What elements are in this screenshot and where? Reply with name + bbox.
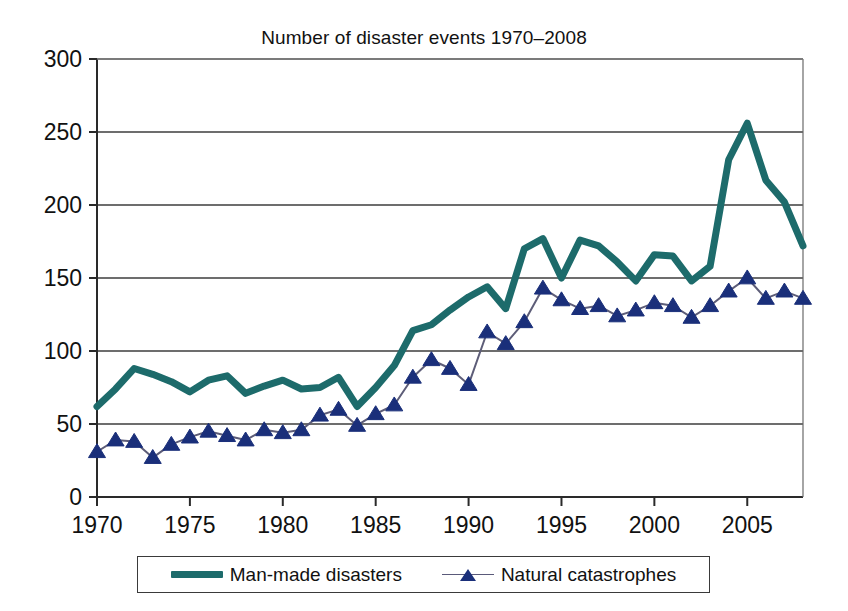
data-point-marker-triangle: [479, 324, 496, 338]
legend-item-natural: Natural catastrophes: [442, 564, 676, 586]
data-point-marker-triangle: [739, 270, 756, 284]
x-tick-label: 1995: [536, 512, 587, 538]
data-point-marker-triangle: [89, 444, 106, 458]
data-point-marker-triangle: [200, 423, 217, 437]
chart-plot-area: 050100150200250300 197019751980198519901…: [0, 0, 848, 611]
data-point-marker-triangle: [553, 292, 570, 306]
data-point-marker-triangle: [534, 280, 551, 294]
data-point-marker-triangle: [776, 283, 793, 297]
x-tick-label: 1970: [71, 512, 122, 538]
data-point-marker-triangle: [720, 283, 737, 297]
y-tick-label: 50: [56, 411, 82, 437]
x-tick-label: 1990: [443, 512, 494, 538]
data-point-marker-triangle: [683, 309, 700, 323]
y-tick-label: 150: [44, 265, 82, 291]
x-tick-label: 2000: [629, 512, 680, 538]
y-tick-label: 250: [44, 119, 82, 145]
data-point-marker-triangle: [516, 314, 533, 328]
data-series: [89, 123, 812, 463]
data-point-marker-triangle: [386, 397, 403, 411]
data-point-marker-triangle: [107, 432, 124, 446]
data-point-marker-triangle: [423, 352, 440, 366]
legend-label-natural: Natural catastrophes: [501, 564, 676, 586]
y-axis-ticks: 050100150200250300: [44, 46, 97, 510]
x-tick-label: 1975: [164, 512, 215, 538]
x-tick-label: 1985: [350, 512, 401, 538]
data-point-marker-triangle: [646, 295, 663, 309]
data-point-marker-triangle: [627, 302, 644, 316]
chart-legend: Man-made disasters Natural catastrophes: [137, 556, 710, 593]
y-tick-label: 200: [44, 192, 82, 218]
legend-label-man-made: Man-made disasters: [230, 564, 402, 586]
data-point-marker-triangle: [795, 290, 812, 304]
x-tick-label: 1980: [257, 512, 308, 538]
legend-triangle-marker-icon: [442, 569, 494, 581]
data-point-marker-triangle: [702, 298, 719, 312]
data-point-marker-triangle: [590, 298, 607, 312]
y-tick-label: 0: [69, 484, 82, 510]
legend-line-swatch-icon: [171, 571, 223, 578]
y-tick-label: 300: [44, 46, 82, 72]
data-point-marker-triangle: [367, 406, 384, 420]
data-point-marker-triangle: [330, 401, 347, 415]
legend-item-man-made: Man-made disasters: [171, 564, 402, 586]
x-axis-ticks: 19701975198019851990199520002005: [71, 497, 772, 538]
y-tick-label: 100: [44, 338, 82, 364]
data-point-marker-triangle: [442, 360, 459, 374]
x-tick-label: 2005: [722, 512, 773, 538]
data-point-marker-triangle: [163, 436, 180, 450]
chart-figure: Number of disaster events 1970–2008 0501…: [0, 0, 848, 611]
